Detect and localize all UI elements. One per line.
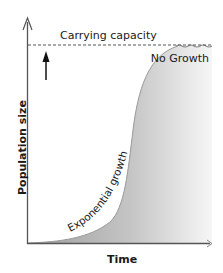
up-arrow-icon	[43, 51, 50, 62]
y-axis-label: Population size	[16, 98, 29, 198]
curve-fill-area	[28, 46, 212, 243]
x-axis-label: Time	[107, 253, 137, 266]
carrying-capacity-label: Carrying capacity	[60, 29, 157, 42]
no-growth-label: No Growth	[149, 52, 209, 66]
